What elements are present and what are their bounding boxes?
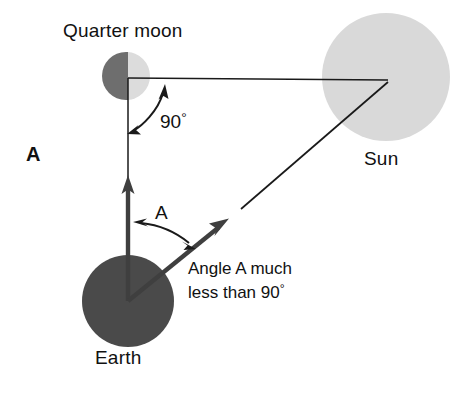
angle-a-note: Angle A muchless than 90°: [188, 258, 292, 305]
right-angle-label: 90°: [160, 110, 187, 133]
angle-a-arc-head-left: [133, 219, 148, 227]
right-angle-arc-head-up: [159, 84, 169, 100]
parallax-distance-diagram: Quarter moon Earth Sun A 90° A Angle A m…: [0, 0, 474, 395]
right-angle-value: 90: [160, 111, 181, 132]
earth-label: Earth: [95, 347, 141, 369]
angle-a-label: A: [155, 202, 168, 224]
sun-label: Sun: [364, 148, 398, 170]
right-angle-degree-symbol: °: [181, 110, 186, 125]
angle-a-note-degree-symbol: °: [280, 282, 285, 296]
quarter-moon-label: Quarter moon: [63, 20, 183, 42]
panel-letter-label: A: [26, 143, 40, 167]
right-angle-arc: [133, 93, 163, 131]
angle-a-arc: [141, 223, 189, 243]
angle-a-note-line1: Angle A much: [188, 259, 292, 278]
diagram-canvas: [0, 0, 474, 395]
angle-a-note-line2: less than 90: [188, 283, 280, 302]
sun-to-earth-line: [241, 82, 388, 209]
